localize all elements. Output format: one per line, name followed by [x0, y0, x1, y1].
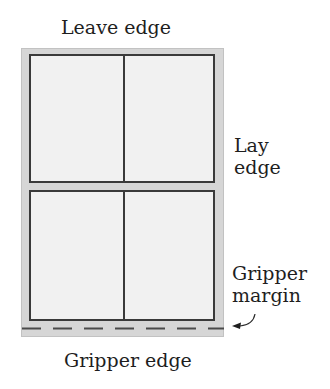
lay-edge-label-line2: edge — [234, 156, 281, 178]
top-panel-divider — [123, 56, 125, 181]
top-panel — [29, 54, 215, 183]
gripper-edge-label: Gripper edge — [64, 349, 192, 371]
arrowhead-icon — [232, 323, 241, 330]
gripper-margin-label-line2: margin — [232, 284, 307, 306]
bottom-panel — [29, 190, 215, 321]
gripper-margin-arrow-icon — [240, 314, 255, 326]
gripper-margin-label: Gripper margin — [232, 262, 307, 306]
lay-edge-label: Lay edge — [234, 134, 281, 178]
leave-edge-label: Leave edge — [61, 16, 171, 38]
bottom-panel-divider — [123, 192, 125, 319]
lay-edge-label-line1: Lay — [234, 134, 281, 156]
gripper-margin-label-line1: Gripper — [232, 262, 307, 284]
